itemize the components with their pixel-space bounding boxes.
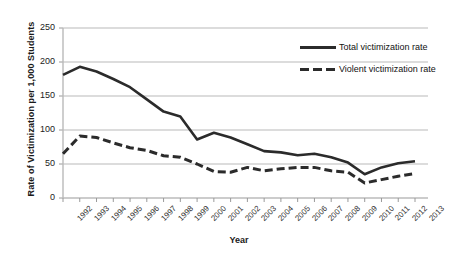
- legend-solid-line-icon: [300, 42, 336, 52]
- legend-label-violent: Violent victimization rate: [339, 64, 436, 74]
- y-tick-label: 50: [27, 158, 55, 168]
- y-tick-label: 0: [27, 192, 55, 202]
- legend-item-total: Total victimization rate: [300, 36, 436, 58]
- y-tick-label: 150: [27, 90, 55, 100]
- y-tick-label: 250: [27, 22, 55, 32]
- legend-dashed-line-icon: [300, 64, 336, 74]
- x-tick-marks: [63, 198, 415, 202]
- series-line-1: [63, 136, 415, 183]
- chart-legend: Total victimization rate Violent victimi…: [300, 36, 436, 80]
- legend-item-violent: Violent victimization rate: [300, 58, 436, 80]
- y-tick-label: 100: [27, 124, 55, 134]
- legend-label-total: Total victimization rate: [339, 42, 428, 52]
- chart-container: Rate of Victimization per 1,000 Students…: [0, 0, 468, 253]
- y-tick-label: 200: [27, 56, 55, 66]
- series-lines: [63, 67, 415, 183]
- series-line-0: [63, 67, 415, 174]
